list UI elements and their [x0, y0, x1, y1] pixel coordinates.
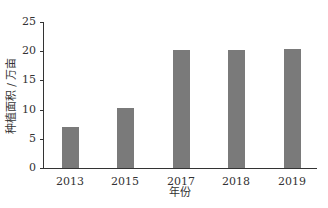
bar-2019 [284, 49, 301, 168]
y-tick [40, 110, 44, 111]
bar-2013 [62, 127, 79, 168]
y-tick [40, 51, 44, 52]
y-tick [40, 139, 44, 140]
y-axis-title: 种植面积 / 万亩 [2, 56, 18, 136]
x-tick-label: 2015 [105, 175, 145, 188]
bar-2015 [117, 108, 134, 168]
y-tick-label: 0 [8, 161, 36, 174]
x-axis [43, 168, 317, 169]
bar-2017 [173, 50, 190, 168]
y-tick [40, 168, 44, 169]
y-axis [43, 22, 44, 168]
x-tick-label: 2019 [272, 175, 312, 188]
x-tick-label: 2013 [50, 175, 90, 188]
x-axis-title: 年份 [160, 183, 200, 199]
bar-2018 [228, 50, 245, 168]
y-tick [40, 80, 44, 81]
x-tick-label: 2018 [216, 175, 256, 188]
y-tick-label: 25 [8, 15, 36, 28]
y-tick [40, 22, 44, 23]
bar-chart: 0510152025 20132015201720182019 种植面积 / 万… [0, 0, 328, 208]
